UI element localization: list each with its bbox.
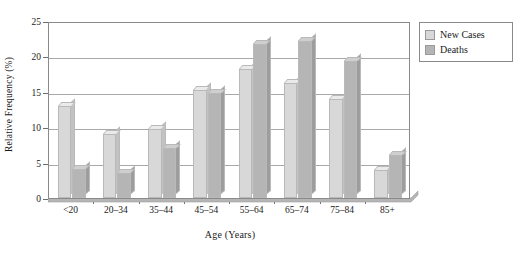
x-axis-tick: [139, 199, 140, 204]
x-axis-tick: [93, 199, 94, 204]
bar-face: [329, 99, 343, 198]
y-axis-tick-label: 10: [0, 123, 41, 133]
bar-new-cases: [103, 134, 117, 198]
x-axis-tick: [365, 199, 366, 204]
bar-deaths: [253, 44, 267, 198]
bar-new-cases: [193, 90, 207, 198]
x-axis-tick-label: 65–74: [285, 205, 309, 215]
legend-item-new-cases: New Cases: [425, 27, 507, 42]
x-axis-tick-label: <20: [63, 205, 78, 215]
bar-side-3d: [357, 53, 361, 194]
bar-face: [58, 106, 72, 198]
bar-face: [163, 148, 177, 198]
relative-frequency-bar-chart: Relative Frequency (%) Age (Years) 05101…: [0, 0, 522, 255]
y-axis-tick: [43, 199, 48, 200]
bar-deaths: [344, 61, 358, 198]
legend-label-new-cases: New Cases: [440, 29, 485, 40]
bar-face: [103, 134, 117, 198]
legend-swatch-new-cases-icon: [425, 30, 435, 40]
x-axis-tick-label: 55–64: [240, 205, 264, 215]
bar-new-cases: [239, 69, 253, 198]
bar-face: [148, 129, 162, 198]
bar-deaths: [163, 148, 177, 198]
bar-new-cases: [148, 129, 162, 198]
legend-item-deaths: Deaths: [425, 42, 507, 57]
x-axis-tick-label: 45–54: [195, 205, 219, 215]
bar-deaths: [298, 41, 312, 198]
legend-label-deaths: Deaths: [440, 44, 468, 55]
bar-face: [298, 41, 312, 198]
bar-face: [374, 170, 388, 198]
y-axis-tick-label: 20: [0, 52, 41, 62]
plot-area: [49, 23, 409, 198]
bar-deaths: [117, 173, 131, 198]
bar-face: [284, 83, 298, 198]
bar-face: [344, 61, 358, 198]
bar-side-3d: [221, 85, 225, 194]
y-axis-tick-label: 15: [0, 88, 41, 98]
bar-face: [253, 44, 267, 198]
bar-new-cases: [284, 83, 298, 198]
bar-face: [389, 155, 403, 198]
legend-swatch-deaths-icon: [425, 45, 435, 55]
bar-deaths: [389, 155, 403, 198]
bar-face: [72, 169, 86, 198]
x-axis-tick-label: 75–84: [330, 205, 354, 215]
x-axis-tick-label: 85+: [380, 205, 395, 215]
bar-face: [117, 173, 131, 198]
x-axis-tick-label: 20–34: [104, 205, 128, 215]
bar-deaths: [72, 169, 86, 198]
bar-face: [239, 69, 253, 198]
bar-deaths: [208, 93, 222, 198]
y-axis-tick-label: 5: [0, 159, 41, 169]
x-axis-tick-label: 35–44: [149, 205, 173, 215]
bar-new-cases: [374, 170, 388, 198]
x-axis-tick: [274, 199, 275, 204]
bar-face: [208, 93, 222, 198]
x-axis-tick: [320, 199, 321, 204]
plot-frame: [48, 22, 410, 199]
bar-new-cases: [58, 106, 72, 198]
bar-side-3d: [176, 140, 180, 194]
chart-legend: New Cases Deaths: [419, 22, 513, 62]
x-axis-tick: [184, 199, 185, 204]
x-axis-title: Age (Years): [50, 229, 410, 240]
bar-side-3d: [312, 33, 316, 194]
bar-new-cases: [329, 99, 343, 198]
bar-side-3d: [267, 36, 271, 194]
bar-face: [193, 90, 207, 198]
y-axis-tick-label: 25: [0, 17, 41, 27]
y-axis-tick-label: 0: [0, 194, 41, 204]
x-axis-tick: [229, 199, 230, 204]
